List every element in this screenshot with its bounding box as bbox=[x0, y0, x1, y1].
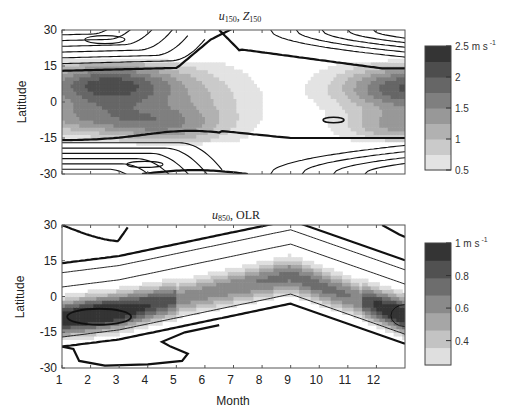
shade-cell bbox=[319, 264, 323, 268]
y-tick-label: 15 bbox=[44, 254, 58, 268]
shade-cell bbox=[236, 138, 240, 142]
colorbar-swatch bbox=[425, 139, 451, 155]
shade-cell bbox=[405, 91, 409, 95]
shade-cell bbox=[131, 329, 135, 333]
shade-cell bbox=[405, 297, 409, 301]
bottom-panel-title: u850, OLR bbox=[212, 208, 260, 223]
contour-line bbox=[365, 164, 405, 175]
colorbar-tick-label: 1 bbox=[455, 134, 461, 145]
shade-cell bbox=[251, 127, 255, 131]
y-tick-label: 0 bbox=[50, 290, 57, 304]
contour-line bbox=[62, 14, 125, 35]
colorbar-tick-label: 0.4 bbox=[455, 336, 469, 347]
shade-cell bbox=[405, 120, 409, 124]
shade-cell bbox=[116, 332, 120, 336]
shade-cell bbox=[405, 80, 409, 84]
shade-cell bbox=[259, 113, 263, 117]
shade-cell bbox=[405, 293, 409, 297]
shade-cell bbox=[405, 98, 409, 102]
shade-cell bbox=[222, 62, 226, 66]
shade-cell bbox=[245, 134, 249, 138]
x-tick-label: 7 bbox=[227, 373, 234, 387]
x-axis-label: Month bbox=[216, 394, 249, 408]
colorbar-swatch bbox=[425, 295, 451, 313]
shade-cell bbox=[405, 131, 409, 135]
shade-cell bbox=[248, 77, 252, 81]
y-tick-label: 30 bbox=[44, 218, 58, 232]
contour-thick-arc bbox=[382, 225, 405, 237]
colorbar-tick-label: 0.6 bbox=[455, 303, 469, 314]
shade-cell bbox=[405, 70, 409, 74]
bottom-y-axis-label: Latitude bbox=[13, 275, 27, 318]
colorbar-tick-label: 2 bbox=[455, 72, 461, 83]
colorbar-swatch bbox=[425, 330, 451, 348]
y-tick-label: 15 bbox=[44, 59, 58, 73]
shade-cell bbox=[256, 120, 260, 124]
shade-cell bbox=[405, 66, 409, 70]
shade-cell bbox=[299, 257, 303, 261]
shade-cell bbox=[405, 138, 409, 142]
top-y-axis-label: Latitude bbox=[15, 80, 29, 123]
shade-cell bbox=[254, 84, 258, 88]
y-tick-label: -15 bbox=[40, 325, 58, 339]
colorbar-swatch bbox=[425, 108, 451, 124]
x-tick-label: 9 bbox=[284, 373, 291, 387]
shade-cell bbox=[159, 322, 163, 326]
shade-cell bbox=[405, 311, 409, 315]
colorbar-swatch bbox=[425, 77, 451, 93]
x-tick-label: 10 bbox=[310, 373, 324, 387]
shade-cell bbox=[405, 109, 409, 113]
colorbar-swatch bbox=[425, 155, 451, 171]
colorbar-tick-label: 2.5 m s -1 bbox=[455, 39, 496, 52]
shade-cell bbox=[259, 109, 263, 113]
x-tick-label: 1 bbox=[56, 373, 63, 387]
shade-cell bbox=[339, 272, 343, 276]
shade-cell bbox=[405, 95, 409, 99]
shade-cell bbox=[331, 268, 335, 272]
shade-cell bbox=[405, 304, 409, 308]
contour-line bbox=[62, 143, 222, 170]
shade-cell bbox=[199, 142, 203, 146]
x-tick-label: 6 bbox=[199, 373, 206, 387]
contour-line bbox=[62, 169, 148, 193]
shade-cell bbox=[288, 254, 292, 258]
contour-line bbox=[62, 153, 194, 180]
shade-cell bbox=[405, 113, 409, 117]
bottom-panel: u850, OLR 30150-15-30 123456789101112 La… bbox=[13, 208, 488, 408]
x-tick-label: 4 bbox=[141, 373, 148, 387]
shade-cell bbox=[405, 59, 409, 63]
shade-cell bbox=[405, 134, 409, 138]
contour-line bbox=[302, 152, 405, 174]
bottom-y-ticks: 30150-15-30 bbox=[40, 218, 65, 375]
colorbar-tick-label: 1.5 bbox=[455, 103, 469, 114]
contour-thick-arc bbox=[62, 225, 128, 241]
colorbar-swatch bbox=[425, 62, 451, 78]
y-tick-label: -30 bbox=[40, 167, 58, 181]
shade-cell bbox=[376, 282, 380, 286]
x-tick-label: 12 bbox=[367, 373, 381, 387]
shade-cell bbox=[405, 77, 409, 81]
shade-cell bbox=[251, 80, 255, 84]
x-tick-label: 8 bbox=[256, 373, 263, 387]
contour-line bbox=[322, 30, 405, 47]
shade-cell bbox=[259, 116, 263, 120]
bottom-colorbar: 1 m s -10.80.60.4 bbox=[425, 236, 488, 366]
shade-cell bbox=[405, 62, 409, 66]
shade-cell bbox=[405, 307, 409, 311]
colorbar-swatch bbox=[425, 313, 451, 331]
x-tick-label: 11 bbox=[339, 373, 352, 387]
shade-cell bbox=[259, 91, 263, 95]
shade-cell bbox=[405, 124, 409, 128]
shade-cell bbox=[259, 102, 263, 106]
shade-cell bbox=[405, 322, 409, 326]
shade-cell bbox=[259, 95, 263, 99]
shade-cell bbox=[405, 116, 409, 120]
shade-cell bbox=[405, 314, 409, 318]
shade-cell bbox=[405, 336, 409, 340]
shade-cell bbox=[405, 102, 409, 106]
top-panel-title: u150, Z150 bbox=[219, 9, 262, 24]
x-tick-label: 3 bbox=[113, 373, 120, 387]
y-tick-label: 0 bbox=[50, 95, 57, 109]
colorbar-swatch bbox=[425, 278, 451, 296]
contour-line bbox=[374, 30, 405, 38]
